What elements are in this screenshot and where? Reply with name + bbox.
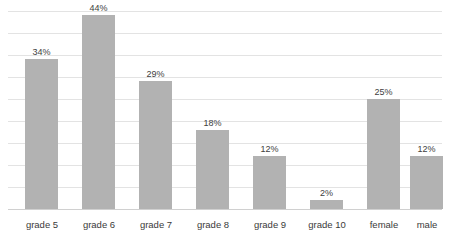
- bar-grade-10: [310, 200, 343, 209]
- bar-value-label: 34%: [12, 47, 72, 58]
- bar-grade-6: [82, 15, 115, 209]
- bar-slot: 34%: [25, 11, 58, 209]
- bar-chart: 34% 44% 29% 18% 12% 2%: [0, 0, 450, 245]
- bar-slot: 29%: [139, 11, 172, 209]
- bar-value-label: 12%: [240, 144, 300, 155]
- plot-area: 34% 44% 29% 18% 12% 2%: [8, 11, 442, 209]
- bar-value-label: 29%: [126, 69, 186, 80]
- bar-slot: 2%: [310, 11, 343, 209]
- bar-value-label: 25%: [354, 87, 414, 98]
- bar-value-label: 18%: [183, 118, 243, 129]
- bar-slot: 12%: [410, 11, 443, 209]
- bar-value-label: 12%: [397, 144, 450, 155]
- category-axis: grade 5 grade 6 grade 7 grade 8 grade 9 …: [8, 214, 442, 238]
- bar-male: [410, 156, 443, 209]
- bar-grade-9: [253, 156, 286, 209]
- bar-grade-7: [139, 81, 172, 209]
- bar-female: [367, 99, 400, 209]
- bar-slot: 25%: [367, 11, 400, 209]
- bar-slot: 18%: [196, 11, 229, 209]
- bar-value-label: 2%: [297, 188, 357, 199]
- category-label-male: male: [392, 218, 450, 231]
- x-axis-baseline: [8, 209, 442, 210]
- bar-series: 34% 44% 29% 18% 12% 2%: [8, 11, 442, 209]
- bar-value-label: 44%: [69, 3, 129, 14]
- bar-grade-8: [196, 130, 229, 209]
- bar-grade-5: [25, 59, 58, 209]
- bar-slot: 12%: [253, 11, 286, 209]
- bar-slot: 44%: [82, 11, 115, 209]
